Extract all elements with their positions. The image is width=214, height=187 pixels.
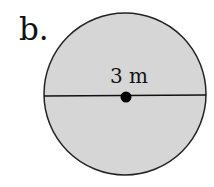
center-point [121, 92, 132, 103]
circle-diagram: 3 m [0, 0, 214, 187]
diameter-label: 3 m [110, 64, 148, 88]
